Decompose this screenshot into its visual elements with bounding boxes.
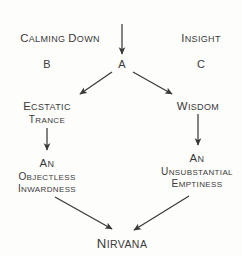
arrow-a-to-wisdom [133, 72, 172, 94]
node-letter-b: B [43, 58, 50, 71]
node-insight: INSIGHT [181, 32, 221, 46]
arrow-a-to-ecstatic [80, 72, 112, 94]
node-objectless-line3: INWARDNESS [18, 183, 76, 195]
node-letter-c-label: C [197, 58, 205, 70]
node-letter-a: A [118, 58, 125, 71]
node-objectless-line1: AN [18, 157, 76, 171]
node-letter-a-label: A [118, 58, 125, 70]
node-wisdom: WISDOM [177, 100, 219, 114]
arrow-unsubstantial-to-nirvana [134, 196, 189, 230]
node-unsubstantial-emptiness: AN UNSUBSTANTIAL EMPTINESS [161, 152, 233, 190]
node-unsubstantial-line2: UNSUBSTANTIAL [161, 166, 233, 178]
node-letter-b-label: B [43, 58, 50, 70]
node-unsubstantial-line1: AN [161, 152, 233, 166]
node-objectless-line2: OBJECTLESS [18, 171, 76, 183]
node-ecstatic-trance: ECSTATIC TRANCE [23, 100, 71, 126]
node-letter-c: C [197, 58, 205, 71]
node-calming-down-label: CALMING DOWN [20, 32, 100, 46]
node-objectless-inwardness: AN OBJECTLESS INWARDNESS [18, 157, 76, 195]
node-ecstatic-line1: ECSTATIC [23, 100, 71, 114]
diagram-canvas: CALMING DOWN INSIGHT B A C ECSTATIC TRAN… [0, 0, 242, 256]
node-wisdom-label: WISDOM [177, 100, 219, 114]
node-calming-down: CALMING DOWN [20, 32, 100, 46]
node-nirvana: NIRVANA [97, 236, 148, 252]
arrow-objectless-to-nirvana [55, 197, 112, 229]
node-nirvana-label: NIRVANA [97, 236, 148, 252]
node-ecstatic-line2: TRANCE [23, 114, 71, 126]
node-unsubstantial-line3: EMPTINESS [161, 178, 233, 190]
node-insight-label: INSIGHT [181, 32, 221, 46]
